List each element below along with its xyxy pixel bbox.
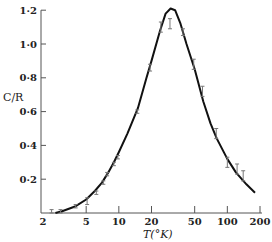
x-tick-label: 200 (250, 216, 271, 227)
x-tick-label: 5 (83, 216, 90, 227)
x-tick-label: 2 (40, 216, 47, 227)
y-tick-label: 0·6 (20, 106, 37, 117)
data-points (50, 19, 246, 213)
x-tick-label: 10 (112, 216, 126, 227)
y-axis-title: C/R (3, 91, 24, 104)
y-tick-label: 0·2 (20, 174, 37, 185)
y-tick-label: 1·0 (20, 39, 37, 50)
curve-path (55, 9, 255, 214)
chart: 0·20·40·60·81·01·225102050100200 C/R T(°… (0, 0, 272, 242)
y-tick-label: 1·2 (20, 5, 37, 16)
x-tick-label: 50 (188, 216, 202, 227)
x-axis-title: T(°K) (143, 228, 173, 241)
x-tick-label: 20 (145, 216, 159, 227)
axes (41, 10, 262, 213)
error-bar-point (168, 19, 172, 29)
tick-labels: 0·20·40·60·81·01·225102050100200 (20, 5, 271, 227)
y-tick-label: 0·8 (20, 72, 37, 83)
y-tick-label: 0·4 (20, 140, 37, 151)
error-bar-point (50, 210, 54, 213)
theory-curve (55, 9, 255, 214)
x-tick-label: 100 (217, 216, 238, 227)
